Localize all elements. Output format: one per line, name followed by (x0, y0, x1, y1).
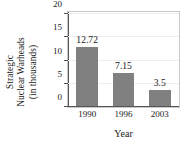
bar-chart-figure: Strategic Nuclear Warheads (in thousands… (0, 0, 191, 147)
y-axis-tick-label: 20 (53, 0, 62, 9)
y-axis-tick (64, 106, 68, 107)
bar: 3.52003 (149, 90, 171, 106)
x-axis-tick-label: 2003 (151, 109, 169, 119)
y-axis-title: Strategic Nuclear Warheads (in thousands… (0, 16, 44, 128)
y-axis-title-line-1: Strategic (5, 37, 16, 107)
bar: 12.721990 (76, 47, 98, 106)
x-axis-tick-label: 1996 (114, 109, 132, 119)
bar-value-label: 3.5 (154, 77, 166, 88)
y-axis-tick-label: 0 (58, 92, 63, 102)
bar-value-label: 7.15 (115, 60, 132, 71)
bar-value-label: 12.72 (76, 34, 98, 45)
x-axis-title: Year (67, 128, 180, 139)
y-axis-tick (64, 13, 68, 14)
x-axis-line (68, 106, 179, 107)
y-axis-title-line-3: (in thousands) (28, 37, 39, 107)
x-axis-tick-label: 1990 (78, 109, 96, 119)
y-axis-tick (64, 36, 68, 37)
y-axis-tick-label: 10 (53, 46, 62, 56)
plot-area: 05101520 12.7219907.1519963.52003 (67, 11, 180, 108)
y-axis-title-line-2: Nuclear Warheads (16, 37, 27, 107)
gridline (68, 13, 179, 14)
y-axis-tick-label: 5 (58, 69, 63, 79)
y-axis-tick (64, 83, 68, 84)
bar: 7.151996 (113, 73, 135, 106)
y-axis-tick (64, 60, 68, 61)
y-axis-tick-label: 15 (53, 22, 62, 32)
